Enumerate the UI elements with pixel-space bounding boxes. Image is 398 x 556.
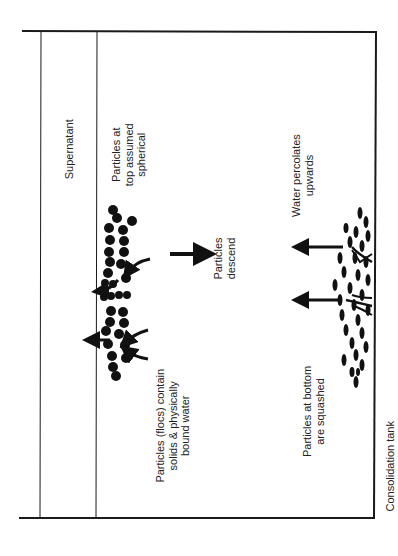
label-supernatant: Supernatant [63, 99, 76, 199]
label-squashed: Particles at bottom are squashed [301, 357, 326, 467]
label-tank: Consolidation tank [384, 411, 397, 521]
consolidation-diagram [0, 0, 398, 556]
label-line: Water percolates [290, 126, 303, 226]
label-line: solids & physically [167, 351, 180, 501]
label-descend: Particles descend [212, 229, 237, 289]
label-line: are squashed [313, 357, 326, 467]
label-line: Particles [212, 229, 225, 289]
label-line: bound water [179, 351, 192, 501]
label-percolates: Water percolates upwards [290, 126, 315, 226]
label-line: upwards [302, 126, 315, 226]
label-top-spherical: Particles at top assumed spherical [110, 110, 148, 200]
label-line: Particles at bottom [301, 357, 314, 467]
label-line: descend [224, 229, 237, 289]
label-flocs: Particles (flocs) contain solids & physi… [154, 351, 192, 501]
label-line: spherical [135, 110, 148, 200]
label-line: Particles at [110, 110, 123, 200]
label-line: top assumed [123, 110, 136, 200]
label-line: Particles (flocs) contain [154, 351, 167, 501]
